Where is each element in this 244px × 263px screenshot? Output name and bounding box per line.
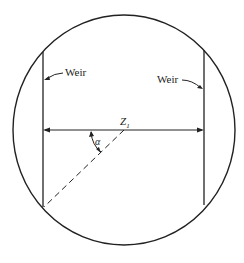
dimension-arrow-left-icon — [43, 128, 50, 133]
angle-label: α — [95, 136, 100, 147]
left-leader-arrow-icon — [44, 76, 50, 80]
weir-right-label: Weir — [157, 73, 178, 85]
dimension-subscript: 1 — [126, 122, 130, 130]
dashed-chord-line — [44, 130, 124, 207]
tray-diagram — [0, 0, 244, 263]
right-weir-leader — [182, 80, 201, 88]
angle-arrow-icon — [89, 131, 94, 137]
dimension-arrow-right-icon — [197, 128, 204, 133]
weir-left-label: Weir — [65, 66, 86, 78]
dimension-label: Z1 — [120, 115, 130, 130]
